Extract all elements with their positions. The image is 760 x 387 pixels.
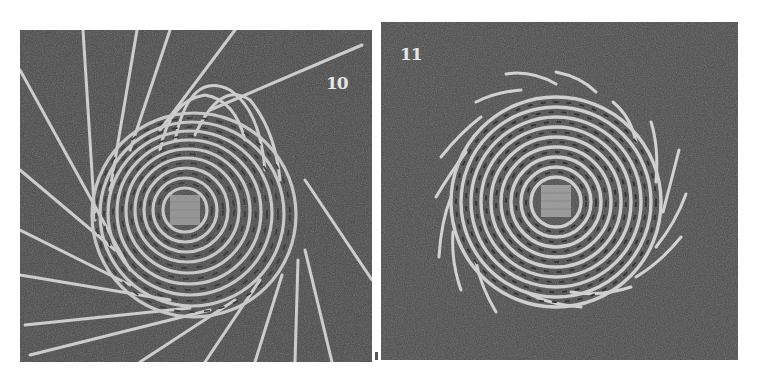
figure-label-10: 10 xyxy=(326,73,348,93)
spiral-with-stakes-image xyxy=(20,30,372,362)
divider-mark xyxy=(375,352,378,360)
photo-panel-10: 10 xyxy=(20,30,372,362)
photo-panel-11: 11 xyxy=(381,22,738,360)
finished-spiral-image xyxy=(381,22,738,360)
figure-label-11: 11 xyxy=(400,44,422,64)
